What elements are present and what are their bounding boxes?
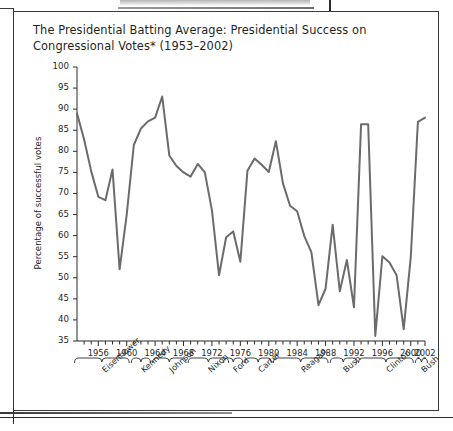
y-tick-label: 80 [43,145,69,155]
y-tick-label: 85 [43,124,69,134]
x-tick-label: 1976 [230,348,251,358]
figure-container: The Presidential Batting Average: Presid… [13,11,439,411]
chart-plot-area: Percentage of successful votes 100959085… [14,12,440,412]
y-tick-label: 70 [43,187,69,197]
page-footer-rule-2 [0,417,453,418]
data-series-line [77,97,425,336]
y-tick-label: 75 [43,166,69,176]
y-tick-label: 55 [43,251,69,261]
page-root: The Presidential Batting Average: Presid… [0,0,453,431]
x-tick-label: 1956 [88,348,109,358]
y-tick-label: 95 [43,82,69,92]
x-tick-label: 1984 [286,348,307,358]
x-tick-label: 1996 [372,348,393,358]
chart-axes [77,67,425,341]
y-tick-label: 40 [43,314,69,324]
y-tick-label: 45 [43,293,69,303]
page-footer-rule [0,412,232,414]
y-tick-label: 65 [43,209,69,219]
y-tick-label: 50 [43,272,69,282]
page-left-rule-top [0,8,14,9]
y-tick-label: 90 [43,103,69,113]
y-axis-ticks [73,67,77,341]
page-header-smudge [120,0,310,6]
page-header-rule [118,7,314,9]
y-tick-label: 100 [43,61,69,71]
y-tick-label: 35 [43,335,69,345]
y-tick-label: 60 [43,230,69,240]
